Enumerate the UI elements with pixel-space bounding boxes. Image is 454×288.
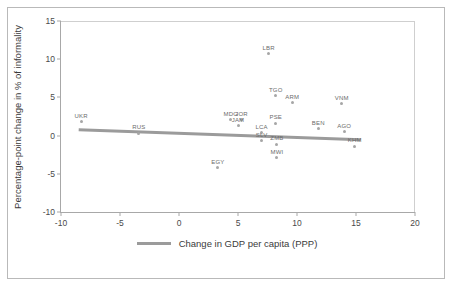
scatter-point-label: ZMB [270,135,283,141]
x-tick-mark [61,212,62,216]
scatter-point-label: PSE [269,114,282,120]
x-tick-mark [120,212,121,216]
chart-figure: Percentage-point change in % of informal… [0,0,454,288]
x-tick-mark [179,212,180,216]
scatter-point-label: KHM [348,137,362,143]
scatter-point [317,127,320,130]
scatter-point [237,124,240,127]
scatter-point-label: ARM [285,94,299,100]
scatter-point-label: LBR [263,45,275,51]
scatter-point-label: TGO [269,87,283,93]
scatter-point-label: VNM [335,95,349,101]
scatter-point-label: AGO [337,123,351,129]
plot-area: -10-5051015 -10-505101520 UKRRUSEGYMDGJO… [60,21,415,213]
scatter-point-label: RUS [132,124,145,130]
x-tick-mark [415,212,416,216]
scatter-point-label: MWI [270,149,283,155]
x-tick-mark [356,212,357,216]
legend-label: Change in GDP per capita (PPP) [179,238,318,249]
legend-line-swatch [137,242,171,245]
scatter-point-label: EGY [211,159,224,165]
scatter-point-label: BEN [312,120,325,126]
scatter-point-label: SLV [256,132,268,138]
scatter-point-label: LCA [255,124,267,130]
y-axis-title: Percentage-point change in % of informal… [11,21,25,213]
x-tick-mark [238,212,239,216]
scatter-point-label: JOR [235,111,248,117]
x-tick-mark [297,212,298,216]
scatter-point-label: JAM [232,117,245,123]
scatter-point-label: UKR [74,113,87,119]
chart-legend: Change in GDP per capita (PPP) [0,238,454,249]
